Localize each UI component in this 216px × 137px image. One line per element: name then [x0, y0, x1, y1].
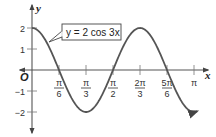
svg-text:2π: 2π: [134, 78, 145, 88]
svg-text:2: 2: [110, 89, 115, 99]
svg-text:π: π: [83, 78, 89, 88]
x-axis-label: x: [204, 69, 211, 81]
cosine-graph: π6π3π22π35π6π 21−1−2 x y O y = 2 cos 3x: [0, 0, 216, 137]
svg-text:3: 3: [83, 89, 88, 99]
x-tick-label: π3: [81, 78, 91, 99]
svg-text:6: 6: [56, 89, 61, 99]
y-tick-label: −1: [15, 87, 25, 97]
equation-text: y = 2 cos 3x: [66, 27, 120, 38]
svg-text:π: π: [191, 78, 197, 88]
x-tick-label: 2π3: [134, 78, 145, 99]
equation-callout: y = 2 cos 3x: [49, 24, 121, 42]
svg-text:6: 6: [164, 89, 169, 99]
y-tick-label: −2: [15, 108, 25, 118]
svg-text:π: π: [110, 78, 116, 88]
x-tick-label: π2: [108, 78, 118, 99]
svg-text:π: π: [56, 78, 62, 88]
y-axis-label: y: [34, 2, 41, 14]
x-tick-label: π: [191, 78, 197, 88]
x-tick-label: π6: [54, 78, 64, 99]
svg-text:3: 3: [137, 89, 142, 99]
origin-label: O: [20, 71, 29, 83]
y-tick-label: 1: [20, 45, 25, 55]
y-tick-label: 2: [20, 24, 25, 34]
